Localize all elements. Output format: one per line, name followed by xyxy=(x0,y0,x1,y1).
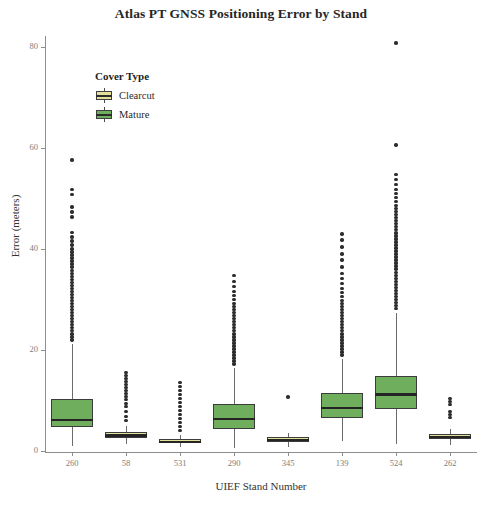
whisker-lower xyxy=(450,439,451,445)
outlier-point xyxy=(448,403,451,406)
outlier-point xyxy=(448,400,451,403)
outlier-point xyxy=(448,410,451,413)
outlier-point xyxy=(448,413,451,416)
median-line xyxy=(429,436,471,438)
outlier-point xyxy=(448,416,451,419)
outlier-point xyxy=(448,397,451,400)
boxplot-chart: Atlas PT GNSS Positioning Error by Stand… xyxy=(0,0,482,505)
boxplot-262 xyxy=(0,0,482,505)
